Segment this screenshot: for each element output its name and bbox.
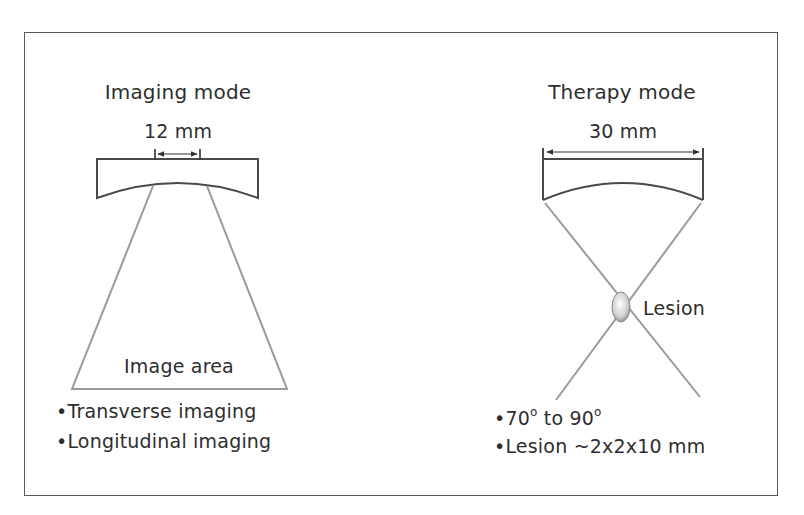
image-area-label: Image area: [124, 355, 234, 377]
angle-from: •70: [494, 407, 530, 429]
therapy-aperture-label: 30 mm: [589, 120, 657, 142]
imaging-transducer: [97, 159, 258, 198]
angle-to: to 90: [538, 407, 595, 429]
imaging-mode-title: Imaging mode: [105, 80, 252, 104]
imaging-bullet-longitudinal: •Longitudinal imaging: [56, 430, 271, 452]
lesion-ellipse: [612, 292, 630, 322]
imaging-bullet-transverse: •Transverse imaging: [56, 400, 256, 422]
degree-symbol: o: [530, 405, 538, 419]
therapy-bullet-angle: •70o to 90o: [494, 405, 602, 429]
therapy-bullet-lesion-size: •Lesion ~2x2x10 mm: [494, 435, 705, 457]
lesion-label: Lesion: [643, 297, 705, 319]
imaging-aperture-label: 12 mm: [144, 120, 212, 142]
therapy-mode-title: Therapy mode: [548, 80, 696, 104]
degree-symbol: o: [594, 405, 602, 419]
therapy-transducer: [543, 148, 703, 200]
